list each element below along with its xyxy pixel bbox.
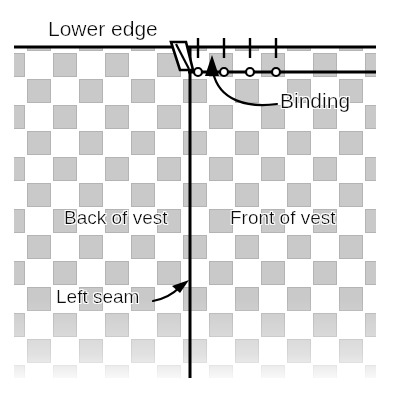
diagram-canvas: Lower edge Binding Back of vest Front of…	[0, 0, 394, 393]
stitch-circle	[194, 68, 202, 76]
stitch-circle	[246, 68, 254, 76]
stitch-circle	[220, 68, 228, 76]
label-front-of-vest: Front of vest	[230, 207, 336, 228]
label-lower-edge: Lower edge	[48, 17, 158, 40]
stitch-circle	[272, 68, 280, 76]
vest-binding-diagram: Lower edge Binding Back of vest Front of…	[0, 0, 394, 393]
label-binding: Binding	[280, 89, 350, 112]
label-left-seam: Left seam	[56, 286, 139, 307]
label-back-of-vest: Back of vest	[64, 207, 168, 228]
